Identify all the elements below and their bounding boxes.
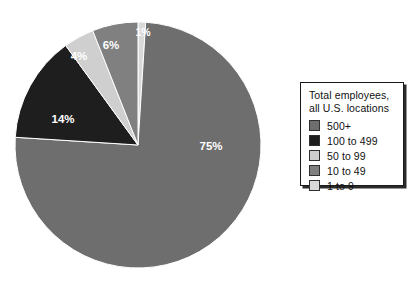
legend-swatch-icon [309,150,320,161]
pie-slice-group [15,22,261,268]
legend-item[interactable]: 50 to 99 [309,148,396,163]
legend-title: Total employees, all U.S. locations [309,89,396,115]
legend-item-label: 50 to 99 [327,150,366,162]
legend-item[interactable]: 10 to 49 [309,163,396,178]
pie-slice-label: 4% [71,50,88,62]
legend-item-label: 10 to 49 [327,165,366,177]
pie-slice-label: 6% [103,39,120,51]
pie-slice-label: 1% [135,26,151,38]
legend-item[interactable]: 500+ [309,118,396,133]
legend-swatch-icon [309,120,320,131]
legend-item[interactable]: 1 to 9 [309,178,396,193]
legend-item-label: 500+ [327,120,351,132]
legend-item-label: 1 to 9 [327,180,354,192]
pie-chart-svg: 1%75%14%4%6% [0,0,284,284]
pie-slice-label: 75% [199,140,222,152]
legend-item[interactable]: 100 to 499 [309,133,396,148]
legend-swatch-icon [309,180,320,191]
legend-item-label: 100 to 499 [327,135,378,147]
pie-chart-area: 1%75%14%4%6% [0,0,284,284]
chart-legend: Total employees, all U.S. locations 500+… [300,82,404,186]
legend-swatch-icon [309,135,320,146]
legend-item-list: 500+100 to 49950 to 9910 to 491 to 9 [309,118,396,193]
pie-chart-figure: 1%75%14%4%6% Total employees, all U.S. l… [0,0,414,284]
pie-slice-label: 14% [51,113,74,125]
legend-swatch-icon [309,165,320,176]
